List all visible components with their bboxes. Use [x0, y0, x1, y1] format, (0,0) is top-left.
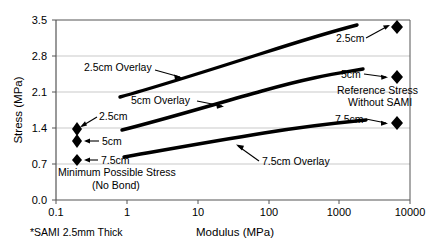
group-label-minimum-stress-line2: (No Bond)	[92, 179, 140, 191]
x-tick-marks	[56, 200, 410, 204]
x-tick-label-100: 100	[260, 206, 278, 218]
group-label-minimum-stress-line1: Minimum Possible Stress	[58, 166, 176, 178]
y-tick-label-3-5: 3.5	[32, 14, 47, 26]
group-label-reference-stress-line2: Without SAMI	[348, 96, 412, 108]
y-tick-label-1-4: 1.4	[32, 122, 47, 134]
x-tick-label-1000: 1000	[327, 206, 351, 218]
x-axis-title: Modulus (MPa)	[196, 226, 274, 238]
curve-label-2-5cm-overlay: 2.5cm Overlay	[84, 61, 152, 73]
marker-label-left-5cm: 5cm	[102, 135, 122, 147]
y-tick-label-2-1: 2.1	[32, 86, 47, 98]
x-tick-label-0-1: 0.1	[48, 206, 63, 218]
curve-label-7-5cm-overlay: 7.5cm Overlay	[262, 155, 330, 167]
footnote: *SAMI 2.5mm Thick	[30, 226, 123, 238]
y-axis-title: Stress (MPa)	[12, 76, 24, 143]
x-tick-label-10: 10	[192, 206, 204, 218]
y-tick-label-2-8: 2.8	[32, 50, 47, 62]
y-tick-label-0-0: 0.0	[32, 194, 47, 206]
group-label-reference-stress-line1: Reference Stress	[337, 84, 418, 96]
chart-svg: 3.5 2.8 2.1 1.4 0.7 0.0 0.1 1 10 100 100…	[0, 0, 444, 249]
x-tick-label-1: 1	[124, 206, 130, 218]
chart-figure: 3.5 2.8 2.1 1.4 0.7 0.0 0.1 1 10 100 100…	[0, 0, 444, 249]
marker-label-left-7-5cm: 7.5cm	[101, 154, 130, 166]
marker-label-right-5cm: 5cm	[341, 68, 361, 80]
marker-label-right-7-5cm: 7.5cm	[335, 113, 364, 125]
marker-label-right-2-5cm: 2.5cm	[336, 32, 365, 44]
curve-label-5cm-overlay: 5cm Overlay	[131, 94, 191, 106]
x-tick-label-10000: 10000	[395, 206, 426, 218]
y-tick-label-0-7: 0.7	[32, 158, 47, 170]
marker-label-left-2-5cm: 2.5cm	[99, 110, 128, 122]
